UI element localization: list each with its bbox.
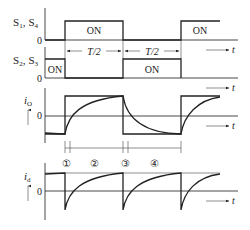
- s1-s4-on-label-1: ON: [87, 25, 101, 36]
- id-current-curve: [45, 173, 220, 210]
- time-axis-label: t: [232, 44, 235, 55]
- s2-s3-zero-label: 0: [37, 73, 42, 84]
- s2-s3-waveform: S2,S3 0 ON ON t: [13, 47, 238, 93]
- s1-s4-on-label-2: ON: [193, 25, 207, 36]
- s1-s4-zero-label: 0: [37, 35, 42, 46]
- period-label-1: T/2: [87, 46, 100, 57]
- s1-s4-waveform: S1,S4 0 ON ON t: [13, 8, 238, 55]
- time-axis-label: t: [232, 82, 235, 93]
- period-dimensions: T/2 T/2: [65, 40, 181, 59]
- io-zero-label: 0: [37, 110, 42, 121]
- time-axis-label: t: [232, 195, 235, 206]
- interval-markers: ① ② ③ ④: [62, 141, 182, 169]
- s2-s3-label: S2,S3: [13, 54, 39, 68]
- interval-label-3: ③: [121, 158, 130, 169]
- id-label: id: [24, 170, 31, 184]
- io-label: iO: [24, 94, 32, 108]
- io-waveform: iO 0 t: [24, 88, 238, 143]
- s2-s3-pulse: [45, 59, 181, 78]
- time-axis-label: t: [232, 120, 235, 131]
- io-voltage-square-wave: [45, 96, 220, 134]
- switching-waveform-diagram: S1,S4 0 ON ON t T/2 T/2 S2,S3 0 ON ON t …: [0, 0, 250, 230]
- id-waveform: id 0 t: [24, 163, 238, 220]
- id-zero-label: 0: [37, 186, 42, 197]
- period-label-2: T/2: [145, 46, 158, 57]
- interval-label-2: ②: [90, 158, 99, 169]
- s2-s3-on-label-2: ON: [145, 64, 159, 75]
- io-current-curve: [45, 96, 220, 134]
- s2-s3-on-label-1: ON: [48, 64, 62, 75]
- s1-s4-label: S1,S4: [13, 16, 39, 30]
- interval-label-1: ①: [62, 158, 71, 169]
- interval-label-4: ④: [150, 158, 159, 169]
